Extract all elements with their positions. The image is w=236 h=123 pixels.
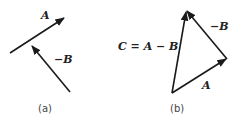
panel-a: A −B (a) (10, 9, 73, 114)
vector-a-arrow (10, 18, 64, 53)
vector-a-arrow-b (172, 59, 226, 93)
vector-c-label: C = A − B (118, 40, 178, 53)
vector-diagram: A −B (a) C = A − B −B A (b) (0, 0, 236, 123)
panel-b: C = A − B −B A (b) (118, 11, 229, 114)
vector-neg-b-arrow-b (187, 11, 227, 59)
vector-neg-b-label-b: −B (210, 20, 229, 33)
vector-a-label: A (40, 9, 50, 22)
caption-b: (b) (170, 103, 184, 114)
vector-neg-b-label: −B (54, 53, 73, 66)
caption-a: (a) (38, 103, 52, 114)
vector-a-label-b: A (201, 79, 211, 92)
